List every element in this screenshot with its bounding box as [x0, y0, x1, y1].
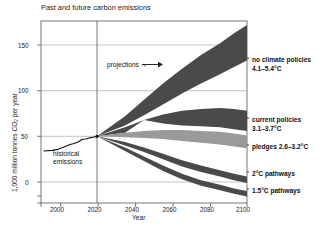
figure-carbon-emissions: Past and future carbon emissions 1,000 m…: [0, 0, 333, 230]
x-axis-label: Year: [132, 214, 145, 222]
x-tick-2000: 2000: [50, 206, 64, 213]
y-axis-ticks: [37, 45, 41, 203]
y-axis-label-subscript: 2: [14, 119, 19, 122]
page-title: Past and future carbon emissions: [41, 4, 151, 13]
x-axis-ticks: [41, 203, 247, 207]
y-tick-0: 0: [25, 179, 29, 186]
annotation-pledges: pledges 2.6–3.2°C: [252, 143, 308, 151]
x-tick-2100: 2100: [236, 206, 250, 213]
x-tick-2080: 2080: [200, 206, 214, 213]
y-axis-label-post: per year: [11, 93, 18, 119]
x-tick-2020: 2020: [88, 206, 102, 213]
x-tick-2060: 2060: [163, 206, 177, 213]
projections-label: projections →: [107, 61, 147, 69]
annotation-current-policies-line2: 3.1–3.7°C: [252, 125, 281, 133]
annotation-2c-pathways: 2°C pathways: [252, 170, 295, 178]
y-tick-100: 100: [18, 87, 29, 94]
annotation-1-5c-pathways: 1.5°C pathways: [252, 187, 300, 195]
chart-canvas: [0, 0, 333, 230]
annotation-no-climate-policies-line2: 4.1–5.4°C: [252, 65, 281, 73]
y-axis-label-pre: 1,000 million tonnes CO: [11, 122, 18, 192]
y-tick-50: 50: [21, 133, 28, 140]
y-axis-label: 1,000 million tonnes CO2 per year: [11, 93, 19, 192]
divergence-point-marker: [95, 135, 98, 138]
annotation-current-policies-line1: current policies: [252, 116, 301, 124]
historical-emissions-label-line1: historical: [53, 150, 79, 158]
historical-emissions-label-line2: emissions: [53, 158, 82, 166]
x-tick-2040: 2040: [125, 206, 139, 213]
annotation-no-climate-policies-line1: no climate policies: [252, 56, 311, 64]
y-tick-150: 150: [18, 42, 29, 49]
